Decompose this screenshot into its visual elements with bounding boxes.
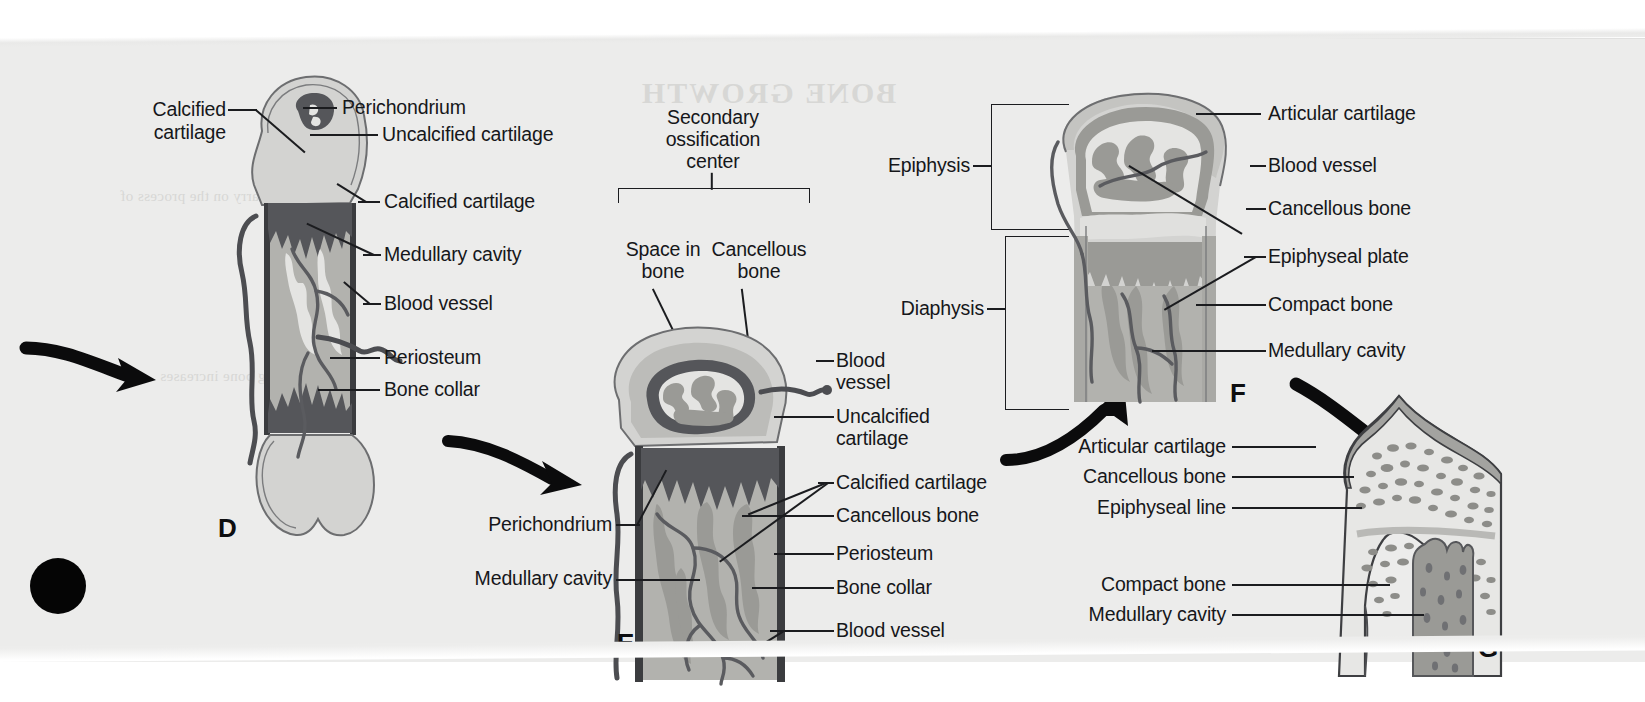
label-uncalcified-cartilage-e-1: Uncalcified bbox=[836, 405, 930, 427]
label-periosteum-d: Periosteum bbox=[384, 346, 481, 368]
leader-bone-collar-e bbox=[752, 587, 834, 589]
label-medullary-cavity-d: Medullary cavity bbox=[384, 243, 521, 265]
label-space-in-bone-2: bone bbox=[608, 260, 718, 282]
label-cancellous-bone-e: Cancellous bone bbox=[836, 504, 979, 526]
leader-calcified-cartilage-d bbox=[228, 109, 257, 111]
label-blood-vessel-e-2: vessel bbox=[836, 371, 890, 393]
leader-uncalcified-cartilage-e bbox=[774, 416, 834, 418]
panel-e-letter: E bbox=[617, 628, 634, 659]
label-bone-collar-e: Bone collar bbox=[836, 576, 932, 598]
leader-compact-bone-f bbox=[1196, 304, 1266, 306]
leader-epiphyseal-line-g bbox=[1232, 507, 1362, 509]
label-calcified-cartilage-e: Calcified cartilage bbox=[836, 471, 987, 493]
leader-articular-cartilage-g bbox=[1232, 446, 1316, 448]
label-perichondrium-d: Perichondrium bbox=[342, 96, 466, 118]
leader-cancellous-bone-g bbox=[1232, 476, 1354, 478]
label-epiphyseal-line-g: Epiphyseal line bbox=[1000, 496, 1226, 518]
panel-g-illustration bbox=[1295, 388, 1535, 678]
panel-d-letter: D bbox=[218, 513, 237, 544]
leader-articular-cartilage-f bbox=[1196, 113, 1261, 115]
label-cancellous-bone-f: Cancellous bone bbox=[1268, 197, 1411, 219]
label-uncalcified-cartilage-e-2: cartilage bbox=[836, 427, 908, 449]
label-blood-vessel-e-bottom: Blood vessel bbox=[836, 619, 945, 641]
label-cancellous-bone-top-1: Cancellous bbox=[703, 238, 815, 260]
label-compact-bone-g: Compact bone bbox=[1000, 573, 1226, 595]
arrow-d-to-e bbox=[20, 328, 200, 408]
label-articular-cartilage-g: Articular cartilage bbox=[1000, 435, 1226, 457]
label-calcified-cartilage-d: Calcified bbox=[98, 98, 226, 120]
label-compact-bone-f: Compact bone bbox=[1268, 293, 1393, 315]
label-calcified-cartilage-d-line2: cartilage bbox=[98, 121, 226, 143]
leader-medullary-cavity-e bbox=[616, 579, 700, 581]
leader-periosteum-d bbox=[330, 357, 380, 359]
leader-medullary-cavity-g bbox=[1232, 614, 1424, 616]
label-space-in-bone-1: Space in bbox=[608, 238, 718, 260]
label-perichondrium-e: Perichondrium bbox=[420, 513, 612, 535]
label-blood-vessel-e-1: Blood bbox=[836, 349, 885, 371]
leader-periosteum-e bbox=[774, 553, 834, 555]
label-epiphysis: Epiphysis bbox=[828, 154, 970, 176]
leader-diaphysis bbox=[987, 308, 1006, 310]
leader-blood-vessel-f bbox=[1250, 165, 1266, 167]
label-secondary-ossification-2: ossification bbox=[613, 128, 813, 150]
label-medullary-cavity-f: Medullary cavity bbox=[1268, 339, 1405, 361]
leader-perichondrium-d bbox=[303, 107, 337, 109]
label-cancellous-bone-top-2: bone bbox=[703, 260, 815, 282]
label-uncalcified-cartilage-d: Uncalcified cartilage bbox=[382, 123, 553, 145]
label-diaphysis: Diaphysis bbox=[842, 297, 984, 319]
figure-canvas: BONE GROWTH carry on the process of long… bbox=[0, 0, 1645, 702]
label-bone-collar-d: Bone collar bbox=[384, 378, 480, 400]
bracket-stem-secondary bbox=[711, 173, 713, 190]
label-epiphyseal-plate-f: Epiphyseal plate bbox=[1268, 245, 1409, 267]
leader-medullary-cavity-f bbox=[1152, 350, 1266, 352]
leader-compact-bone-g bbox=[1232, 584, 1390, 586]
label-blood-vessel-f: Blood vessel bbox=[1268, 154, 1377, 176]
scanned-page: BONE GROWTH carry on the process of long… bbox=[0, 38, 1645, 662]
label-secondary-ossification-3: center bbox=[613, 150, 813, 172]
leader-calcified-cartilage-mid-d bbox=[358, 201, 380, 203]
panel-g-letter: G bbox=[1478, 633, 1498, 664]
leader-blood-vessel-e-top bbox=[816, 360, 834, 362]
label-medullary-cavity-e: Medullary cavity bbox=[400, 567, 612, 589]
bullet-marker bbox=[30, 558, 86, 614]
bracket-secondary-ossification bbox=[618, 188, 810, 203]
leader-uncalcified-cartilage-d bbox=[310, 134, 378, 136]
leader-epiphysis bbox=[973, 165, 992, 167]
leader-cancellous-bone-e bbox=[742, 515, 834, 517]
leader-blood-vessel-d bbox=[363, 303, 381, 305]
label-blood-vessel-d: Blood vessel bbox=[384, 292, 493, 314]
label-cancellous-bone-g: Cancellous bone bbox=[1000, 465, 1226, 487]
panel-f-letter: F bbox=[1230, 378, 1246, 409]
leader-cancellous-bone-f bbox=[1246, 208, 1266, 210]
panel-f-illustration bbox=[1030, 86, 1250, 406]
label-calcified-cartilage-mid-d: Calcified cartilage bbox=[384, 190, 535, 212]
showthrough-heading: BONE GROWTH bbox=[640, 76, 896, 110]
label-medullary-cavity-g: Medullary cavity bbox=[1000, 603, 1226, 625]
leader-bone-collar-d bbox=[318, 389, 380, 391]
label-secondary-ossification-1: Secondary bbox=[613, 106, 813, 128]
label-periosteum-e: Periosteum bbox=[836, 542, 933, 564]
label-articular-cartilage-f: Articular cartilage bbox=[1268, 102, 1416, 124]
